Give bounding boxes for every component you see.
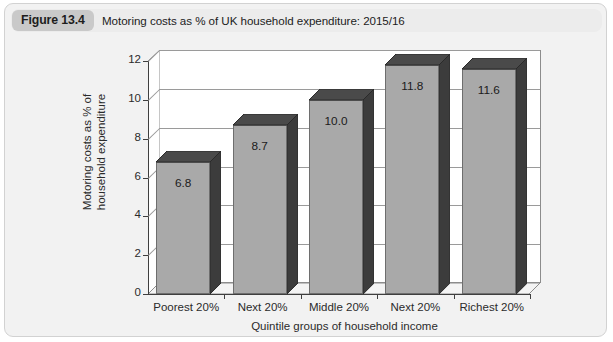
x-axis-line [148,294,530,295]
x-tick-label: Richest 20% [454,301,530,313]
x-tick-label: Next 20% [377,301,453,313]
x-tick-label: Next 20% [224,301,300,313]
x-tick-mark [454,294,455,299]
bar[interactable]: 6.8 [156,151,210,294]
bar-side-face [516,58,527,294]
y-axis-title-line1: Motoring costs as % of [80,62,94,242]
bar[interactable]: 8.7 [233,114,287,294]
y-axis-title: Motoring costs as % of household expendi… [80,62,108,242]
bar-side-face [210,151,221,294]
bar-top-face [385,54,450,66]
y-axis-title-line2: household expenditure [94,62,108,242]
x-tick-mark [530,294,531,299]
figure-caption-text: Motoring costs as % of UK household expe… [102,10,405,31]
bar[interactable]: 11.8 [385,54,439,294]
bar-top-face [156,151,221,163]
bar-side-face [287,114,298,294]
y-axis-tick-labels: 024681012 [115,35,141,335]
x-tick-label: Middle 20% [301,301,377,313]
bar-top-face [462,58,527,70]
y-tick-mark [143,294,148,295]
x-tick-mark [377,294,378,299]
bar-chart: 024681012 6.88.710.011.811.6 Poorest 20%… [11,35,602,335]
bar-front-face [385,65,439,294]
y-tick-mark [143,255,148,256]
y-tick-label: 8 [119,131,141,143]
figure-card: Figure 13.4 Motoring costs as % of UK ho… [4,3,607,337]
x-tick-mark [224,294,225,299]
figure-number-badge: Figure 13.4 [12,10,94,31]
y-tick-label: 2 [119,247,141,259]
bar-top-face [233,114,298,126]
bar-front-face [309,100,363,294]
bar[interactable]: 10.0 [309,89,363,294]
bar-value-label: 6.8 [156,176,210,190]
x-tick-mark [301,294,302,299]
bar-side-face [439,54,450,294]
bar-value-label: 11.8 [385,79,439,93]
y-tick-label: 4 [119,208,141,220]
bar-value-label: 8.7 [233,139,287,153]
bar-value-label: 10.0 [309,114,363,128]
bar-value-label: 11.6 [462,83,516,97]
y-tick-label: 12 [119,53,141,65]
gridline [159,50,540,51]
bar-top-face [309,89,374,101]
y-tick-label: 0 [119,286,141,298]
y-tick-label: 6 [119,170,141,182]
y-tick-label: 10 [119,92,141,104]
bar[interactable]: 11.6 [462,58,516,294]
bar-front-face [462,69,516,294]
y-tick-mark [143,216,148,217]
x-axis-title: Quintile groups of household income [148,320,541,332]
x-tick-label: Poorest 20% [148,301,224,313]
bar-side-face [363,89,374,294]
